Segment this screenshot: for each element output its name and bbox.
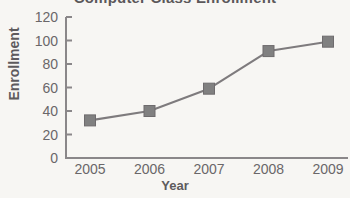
- x-tick-label: 2005: [74, 161, 105, 177]
- series-markers: [85, 36, 334, 126]
- x-tick-label: 2009: [312, 161, 343, 177]
- plot-area: [0, 0, 350, 198]
- x-tick-label: 2008: [253, 161, 284, 177]
- x-tick-label: 2007: [193, 161, 224, 177]
- series-line: [90, 42, 328, 121]
- x-tick-label: 2006: [134, 161, 165, 177]
- chart-figure: Computer Class Enrollment Enrollment Yea…: [0, 0, 350, 198]
